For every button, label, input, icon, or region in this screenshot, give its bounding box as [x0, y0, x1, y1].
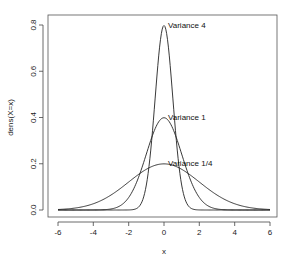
x-tick-label: 6 [268, 228, 273, 237]
density-chart: 0.0 0.2 0.4 0.6 0.8 -6 -4 -2 0 2 4 6 x d… [0, 0, 288, 267]
y-tick-label: 0.2 [29, 158, 38, 170]
y-tick-label: 0.4 [29, 111, 38, 123]
x-tick-labels: -6 -4 -2 0 2 4 6 [54, 228, 272, 237]
y-tick-labels: 0.0 0.2 0.4 0.6 0.8 [29, 19, 38, 216]
density-curves [58, 25, 270, 210]
y-axis [39, 25, 43, 210]
annotation-variance-1: Variance 1 [168, 113, 206, 122]
x-axis-label: x [162, 247, 166, 256]
x-tick-label: -2 [125, 228, 133, 237]
x-tick-label: 2 [197, 228, 202, 237]
y-tick-label: 0.8 [29, 19, 38, 31]
density-curve [58, 164, 270, 210]
x-tick-label: 0 [162, 228, 167, 237]
x-tick-label: -6 [54, 228, 62, 237]
x-axis [58, 222, 270, 226]
plot-box [48, 15, 277, 217]
y-tick-label: 0.0 [29, 204, 38, 216]
annotation-variance-4: Variance 4 [168, 21, 206, 30]
annotation-variance-quarter: Variance 1/4 [168, 159, 213, 168]
y-tick-label: 0.6 [29, 65, 38, 77]
x-tick-label: 4 [232, 228, 237, 237]
x-tick-label: -4 [90, 228, 98, 237]
y-axis-label: dens(X=x) [6, 99, 15, 136]
